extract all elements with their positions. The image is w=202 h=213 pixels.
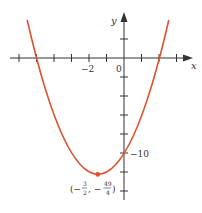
svg-text:2: 2 [83, 189, 87, 196]
svg-text:(−: (− [70, 184, 81, 194]
svg-text:): ) [112, 184, 116, 194]
x-tick-label-neg2: −2 [81, 64, 94, 74]
vertex-point [95, 172, 100, 177]
x-axis-label: x [191, 60, 197, 71]
svg-text:4: 4 [106, 189, 110, 196]
origin-label: 0 [116, 64, 122, 74]
svg-text:3: 3 [83, 180, 87, 187]
parabola-chart: x y −2 0 −10 (− 3 2 , − 49 4 ) [0, 0, 202, 213]
svg-text:49: 49 [104, 180, 112, 187]
y-axis-label: y [110, 15, 117, 26]
vertex-label: (− 3 2 , − 49 4 ) [70, 180, 116, 196]
y-tick-label-neg10: −10 [130, 149, 149, 159]
y-axis [120, 12, 128, 200]
y-axis-arrow-icon [121, 12, 128, 22]
svg-text:, −: , − [88, 184, 101, 194]
